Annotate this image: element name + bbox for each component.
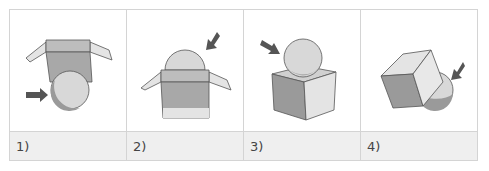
panel-3-image xyxy=(244,10,361,131)
panel-2-label: 2) xyxy=(127,131,244,160)
panel-4-label: 4) xyxy=(361,131,477,160)
tilted-cube-on-sphere-icon xyxy=(361,10,477,131)
panel-4-label-text: 4) xyxy=(367,139,380,154)
sphere-on-cube-icon xyxy=(244,10,361,131)
panel-1-label: 1) xyxy=(10,131,127,160)
panel-2-image xyxy=(127,10,244,131)
panel-3-label: 3) xyxy=(244,131,361,160)
panel-3-label-text: 3) xyxy=(250,139,263,154)
sphere-in-box-icon xyxy=(127,10,243,131)
box-above-sphere-icon xyxy=(10,10,126,131)
panel-1-label-text: 1) xyxy=(16,139,29,154)
panel-2-label-text: 2) xyxy=(133,139,146,154)
panel-1-image xyxy=(10,10,127,131)
panel-4-image xyxy=(361,10,477,131)
figure-table: 1) 2) 3) 4) xyxy=(9,9,478,161)
